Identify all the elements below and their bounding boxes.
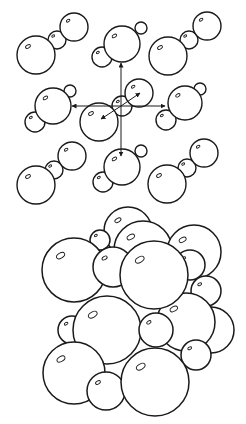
atom <box>135 145 147 157</box>
molecule-mid-left <box>25 85 76 132</box>
cluster-atom <box>87 372 125 410</box>
atom <box>190 139 218 167</box>
molecule-center <box>80 79 153 141</box>
molecule-figure <box>0 0 246 424</box>
molecule-top-center <box>92 22 147 67</box>
atom <box>104 149 140 185</box>
atom <box>58 142 86 170</box>
atom <box>125 79 153 107</box>
atom <box>80 103 118 141</box>
atom <box>17 36 55 74</box>
molecule-top-right <box>149 12 221 75</box>
atom <box>60 13 88 41</box>
atom <box>149 37 187 75</box>
molecule-bottom-left <box>17 142 86 204</box>
atom <box>148 165 186 203</box>
atom <box>135 22 147 34</box>
molecule-diagram <box>0 0 246 424</box>
molecule-top-left <box>17 13 88 74</box>
close-packed-cluster <box>42 207 234 416</box>
molecule-bottom-center <box>93 145 147 192</box>
cluster-atom <box>139 313 173 347</box>
ordered-lattice <box>17 12 221 204</box>
cluster-atom <box>120 241 188 309</box>
atom <box>104 26 140 62</box>
atom <box>193 12 221 40</box>
cluster-atom <box>121 348 189 416</box>
atom <box>17 166 55 204</box>
molecule-bottom-right <box>148 139 218 203</box>
atom <box>35 88 71 124</box>
atom <box>168 86 202 120</box>
